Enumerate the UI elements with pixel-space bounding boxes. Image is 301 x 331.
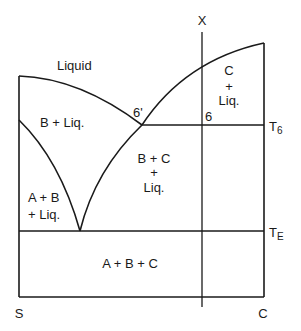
label-t6: T6 (269, 119, 283, 136)
label-bc-liq-3: Liq. (144, 180, 165, 195)
label-6-prime: 6' (133, 105, 143, 120)
label-abc: A + B + C (102, 256, 158, 271)
label-ab-liq-2: + Liq. (28, 207, 60, 222)
phase-diagram: X Liquid B + Liq. 6' 6 C + Liq. T6 TE B … (0, 0, 301, 331)
label-6: 6 (205, 109, 212, 124)
label-bc-liq-2: + (150, 165, 158, 180)
liquidus-c-curve (142, 43, 264, 125)
label-liquid: Liquid (57, 58, 92, 73)
label-ab-liq-1: A + B (28, 190, 59, 205)
label-c-liq-1: C (224, 63, 233, 78)
label-x: X (198, 13, 207, 28)
bc-boundary-curve (80, 125, 142, 231)
label-te: TE (269, 225, 284, 242)
label-s: S (15, 306, 24, 321)
label-c-liq-3: Liq. (219, 93, 240, 108)
label-b-liq: B + Liq. (40, 115, 84, 130)
label-c-liq-2: + (225, 79, 233, 94)
label-bc-liq-1: B + C (138, 151, 171, 166)
label-c: C (258, 306, 267, 321)
